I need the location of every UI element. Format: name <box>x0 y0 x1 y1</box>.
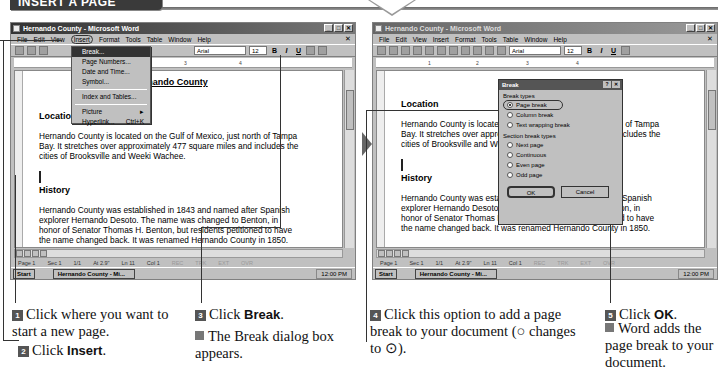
window-title: Hernando County - Microsoft Word <box>23 25 139 32</box>
underline-button[interactable]: U <box>609 47 618 54</box>
help-icon[interactable]: ? <box>603 81 611 88</box>
horizontal-scrollbar[interactable] <box>14 249 343 258</box>
vertical-scrollbar[interactable] <box>344 70 354 248</box>
break-dialog: Break ? ✕ Break types Page break Column … <box>498 79 623 225</box>
cut-icon[interactable] <box>449 46 458 55</box>
radio-odd-page[interactable]: Odd page <box>499 170 622 180</box>
insertion-point[interactable] <box>39 171 41 183</box>
menu-edit[interactable]: Edit <box>33 36 44 43</box>
italic-button[interactable]: I <box>597 47 606 54</box>
font-size-select[interactable]: 12 <box>564 46 582 55</box>
menu-insert[interactable]: Insert <box>433 36 449 43</box>
taskbar-word-button[interactable]: Hernando County - Mi... <box>415 269 497 279</box>
menu-view[interactable]: View <box>413 36 427 43</box>
menu-view[interactable]: View <box>51 36 65 43</box>
taskbar: Start Hernando County - Mi... 12:00 PM <box>11 267 355 279</box>
insertion-point[interactable] <box>401 159 403 171</box>
outline-view-icon[interactable] <box>40 250 47 257</box>
break-types-label: Break types <box>499 90 622 100</box>
paste-icon[interactable] <box>461 46 470 55</box>
open-icon[interactable] <box>389 46 398 55</box>
start-button[interactable]: Start <box>375 269 397 279</box>
close-icon[interactable]: ✕ <box>612 81 620 88</box>
menu-item-hyperlink[interactable]: Hyperlink...Ctrl+K <box>72 117 150 127</box>
web-view-icon[interactable] <box>24 250 31 257</box>
normal-view-icon[interactable] <box>378 250 385 257</box>
minimize-icon[interactable]: _ <box>686 24 695 32</box>
align-center-icon[interactable] <box>318 46 327 55</box>
word-icon <box>375 25 382 32</box>
menu-help[interactable]: Help <box>553 36 566 43</box>
menu-table[interactable]: Table <box>503 36 519 43</box>
menu-help[interactable]: Help <box>197 36 210 43</box>
menu-file[interactable]: File <box>17 36 27 43</box>
menu-item-picture[interactable]: Picture▸ <box>72 107 150 117</box>
menu-window[interactable]: Window <box>524 36 547 43</box>
menu-item-symbol[interactable]: Symbol... <box>72 77 150 87</box>
font-select[interactable]: Arial <box>509 46 561 55</box>
menu-window[interactable]: Window <box>168 36 191 43</box>
maximize-icon[interactable]: □ <box>334 24 343 32</box>
radio-text-wrapping-break[interactable]: Text wrapping break <box>499 120 622 130</box>
ok-button[interactable]: OK <box>507 186 555 198</box>
underline-button[interactable]: U <box>294 47 303 54</box>
radio-column-break[interactable]: Column break <box>499 110 622 120</box>
menu-insert[interactable]: Insert <box>71 35 93 44</box>
italic-button[interactable]: I <box>282 47 291 54</box>
menu-edit[interactable]: Edit <box>395 36 406 43</box>
save-icon[interactable] <box>39 46 48 55</box>
email-icon[interactable] <box>413 46 422 55</box>
align-left-icon[interactable] <box>306 46 315 55</box>
office-assistant-icon[interactable] <box>485 46 494 55</box>
menu-item-break[interactable]: Break... <box>72 47 150 57</box>
maximize-icon[interactable]: □ <box>696 24 705 32</box>
font-select[interactable]: Arial <box>194 46 246 55</box>
undo-icon[interactable] <box>473 46 482 55</box>
radio-page-break[interactable]: Page break <box>503 100 563 110</box>
menu-table[interactable]: Table <box>147 36 163 43</box>
normal-view-icon[interactable] <box>16 250 23 257</box>
menu-tools[interactable]: Tools <box>482 36 497 43</box>
menu-tools[interactable]: Tools <box>126 36 141 43</box>
close-document-icon[interactable]: ✕ <box>707 35 713 43</box>
minimize-icon[interactable]: _ <box>324 24 333 32</box>
menu-item-page-numbers[interactable]: Page Numbers... <box>72 57 150 67</box>
horizontal-ruler[interactable]: 1234 <box>376 58 714 68</box>
document-area[interactable]: Hernando County Location Hernando County… <box>14 70 343 248</box>
menu-format[interactable]: Format <box>99 36 120 43</box>
print-icon[interactable] <box>425 46 434 55</box>
radio-continuous[interactable]: Continuous <box>499 150 622 160</box>
close-document-icon[interactable]: ✕ <box>345 35 351 43</box>
callout-line <box>280 55 281 227</box>
horizontal-scrollbar[interactable] <box>376 249 705 258</box>
horizontal-ruler[interactable]: 34 <box>14 58 352 68</box>
web-view-icon[interactable] <box>386 250 393 257</box>
taskbar-word-button[interactable]: Hernando County - Mi... <box>53 269 135 279</box>
open-icon[interactable] <box>27 46 36 55</box>
help-icon[interactable] <box>497 46 506 55</box>
font-size-select[interactable]: 12 <box>249 46 267 55</box>
new-icon[interactable] <box>377 46 386 55</box>
radio-even-page[interactable]: Even page <box>499 160 622 170</box>
close-icon[interactable]: ✕ <box>344 24 353 32</box>
menu-item-index-tables[interactable]: Index and Tables... <box>72 92 150 102</box>
outline-view-icon[interactable] <box>402 250 409 257</box>
menu-file[interactable]: File <box>379 36 389 43</box>
doc-section-history: History <box>39 185 301 195</box>
bold-button[interactable]: B <box>585 47 594 54</box>
save-icon[interactable] <box>401 46 410 55</box>
radio-next-page[interactable]: Next page <box>499 140 622 150</box>
bold-button[interactable]: B <box>270 47 279 54</box>
vertical-scrollbar[interactable] <box>706 70 716 248</box>
align-left-icon[interactable] <box>621 46 630 55</box>
menu-item-date-time[interactable]: Date and Time... <box>72 67 150 77</box>
print-view-icon[interactable] <box>32 250 39 257</box>
system-clock: 12:00 PM <box>678 269 714 279</box>
print-view-icon[interactable] <box>394 250 401 257</box>
menu-format[interactable]: Format <box>455 36 476 43</box>
cancel-button[interactable]: Cancel <box>561 186 609 198</box>
print-preview-icon[interactable] <box>437 46 446 55</box>
new-icon[interactable] <box>15 46 24 55</box>
close-icon[interactable]: ✕ <box>706 24 715 32</box>
start-button[interactable]: Start <box>13 269 35 279</box>
